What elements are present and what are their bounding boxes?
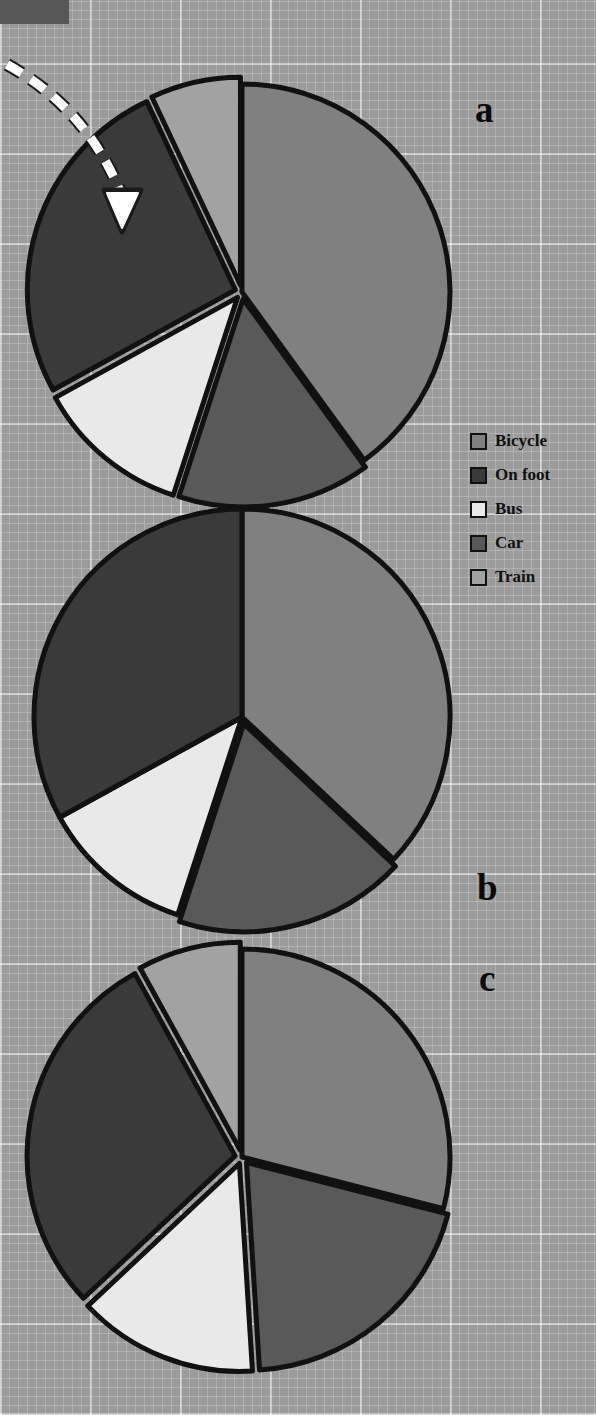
pie-chart-b (14, 495, 484, 935)
legend-swatch-train (470, 569, 487, 586)
legend-item-on-foot: On foot (470, 458, 596, 492)
figure-canvas: a b c Bicycle On foot Bus Car Train (0, 0, 596, 1415)
panel-label-c: c (479, 960, 495, 997)
pie-chart-a (14, 70, 484, 510)
legend-swatch-car (470, 535, 487, 552)
legend-label-bicycle: Bicycle (495, 431, 547, 451)
legend-item-train: Train (470, 560, 596, 594)
legend-label-bus: Bus (495, 499, 522, 519)
corner-marker-block (0, 0, 69, 24)
legend-swatch-bicycle (470, 433, 487, 450)
legend-swatch-on-foot (470, 467, 487, 484)
panel-label-b: b (477, 869, 498, 906)
legend-item-bicycle: Bicycle (470, 424, 596, 458)
panel-label-a: a (475, 91, 494, 128)
legend-label-car: Car (495, 533, 523, 553)
legend-swatch-bus (470, 501, 487, 518)
legend-label-on-foot: On foot (495, 465, 550, 485)
legend-item-bus: Bus (470, 492, 596, 526)
chart-legend: Bicycle On foot Bus Car Train (470, 424, 596, 594)
legend-item-car: Car (470, 526, 596, 560)
legend-label-train: Train (495, 567, 535, 587)
pie-chart-c (14, 935, 484, 1375)
